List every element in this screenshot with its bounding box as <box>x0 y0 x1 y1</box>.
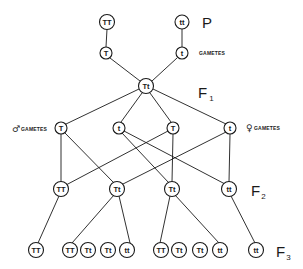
generation-label-p: P <box>202 14 212 31</box>
node-f3-6: TT <box>154 243 169 258</box>
svg-text:Tt: Tt <box>104 246 112 255</box>
svg-text:Tt: Tt <box>84 246 92 255</box>
edge-gt-f1 <box>152 58 177 81</box>
node-male-gamete-t: t <box>113 122 125 134</box>
edge-pTT-gT <box>106 29 107 47</box>
node-p-TT: TT <box>100 15 115 30</box>
edge-mt-f2Ttb <box>122 133 169 183</box>
node-f3-1: TT <box>29 243 44 258</box>
svg-text:TT: TT <box>56 185 66 194</box>
svg-text:tt: tt <box>254 246 259 255</box>
svg-text:T: T <box>171 124 176 133</box>
female-symbol-icon: ♀ <box>246 123 253 133</box>
edge-fT-f2Ttb <box>172 134 173 182</box>
edge-f1-ft <box>153 89 226 124</box>
edge-ft-f2tt <box>229 134 230 182</box>
svg-text:Tt: Tt <box>196 246 204 255</box>
female-gametes-label: GAMETES <box>254 125 281 131</box>
generation-label-f3: F3 <box>276 243 291 262</box>
svg-text:T: T <box>104 49 109 58</box>
node-f3-7: Tt <box>172 243 187 258</box>
svg-text:Tt: Tt <box>142 82 150 91</box>
svg-text:tt: tt <box>125 246 130 255</box>
svg-text:TT: TT <box>102 18 112 27</box>
node-f2-Tt-a: Tt <box>110 182 125 197</box>
svg-text:tt: tt <box>227 185 232 194</box>
node-f3-8: Tt <box>193 243 208 258</box>
node-f3-4: Tt <box>101 243 116 258</box>
svg-text:Tt: Tt <box>113 185 121 194</box>
node-gamete-T: T <box>100 47 112 59</box>
node-f2-TT: TT <box>54 182 69 197</box>
generation-label-f1: F1 <box>198 84 214 103</box>
edge-f2tt-f3 <box>231 196 255 243</box>
edge-gT-f1 <box>110 58 140 81</box>
edge-f1-mT <box>66 89 139 124</box>
edge-ft-f2Tta <box>121 132 226 185</box>
svg-text:TT: TT <box>156 246 166 255</box>
male-symbol-icon: ♂ <box>12 124 20 134</box>
edge-f1-mt <box>121 93 142 122</box>
edge-f2Tta-f3a <box>72 195 114 243</box>
edge-mT-f2Tta <box>65 133 114 183</box>
edge-f1-fT <box>150 93 171 122</box>
node-f3-10: tt <box>249 243 264 258</box>
generation-label-f2: F2 <box>251 182 266 201</box>
node-f2-tt: tt <box>222 182 237 197</box>
edge-f2Ttb-f3b <box>175 195 219 243</box>
edge-f2Ttb-f3a <box>160 196 170 243</box>
edge-f2TT-f3 <box>38 196 59 243</box>
male-gametes-label: GAMETES <box>21 126 48 132</box>
node-gamete-t: t <box>176 47 188 59</box>
svg-text:Tt: Tt <box>175 246 183 255</box>
node-p-tt: tt <box>175 15 189 29</box>
node-f3-2: TT <box>63 243 78 258</box>
genetic-cross-diagram: TT tt P T t GAMETES Tt F1 ♂ GAMETES T t … <box>0 0 303 269</box>
svg-text:TT: TT <box>31 246 41 255</box>
node-f3-9: tt <box>213 243 228 258</box>
node-male-gamete-T: T <box>55 122 67 134</box>
node-f3-5: tt <box>120 243 135 258</box>
parent-gametes-label: GAMETES <box>199 50 226 56</box>
svg-text:tt: tt <box>218 246 223 255</box>
svg-text:Tt: Tt <box>168 185 176 194</box>
node-female-gamete-T: T <box>167 122 179 134</box>
edge-fT-f2TT <box>66 131 168 185</box>
edges <box>38 29 255 243</box>
node-f2-Tt-b: Tt <box>165 182 180 197</box>
node-f3-3: Tt <box>81 243 96 258</box>
edge-f2Tta-f3b <box>119 196 130 243</box>
svg-text:T: T <box>59 124 64 133</box>
node-f1-Tt: Tt <box>139 79 154 94</box>
svg-text:tt: tt <box>180 18 185 27</box>
svg-text:TT: TT <box>65 246 75 255</box>
node-female-gamete-t: t <box>224 122 236 134</box>
